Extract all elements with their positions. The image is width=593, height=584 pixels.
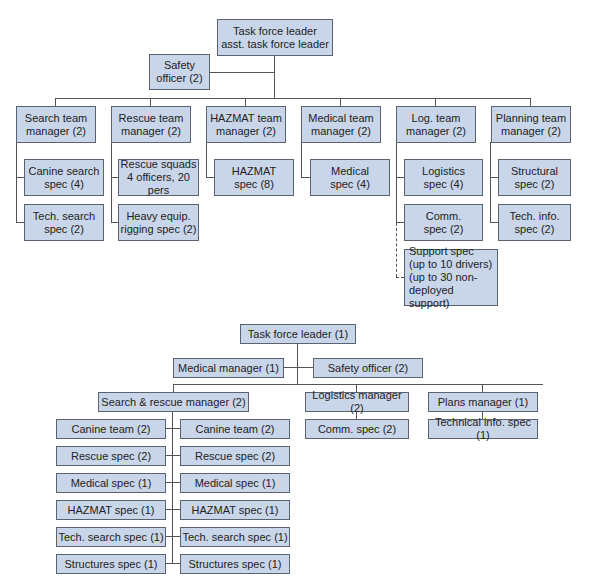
hazmat-spec-box: HAZMAT spec (8) [214,159,294,196]
b-sr-right-spec: HAZMAT spec (1) [180,500,290,520]
comm-spec-box: Comm. spec (2) [404,204,483,241]
connector [173,384,174,392]
connector [111,177,118,178]
connector [245,98,246,106]
connector [111,222,118,223]
hazmat-team-manager-box: HAZMAT team manager (2) [206,106,286,143]
box-label: Heavy equip. rigging spec (2) [121,210,197,236]
box-label: Rescue spec (2) [195,450,275,463]
box-label: Task force leader (1) [248,328,348,341]
b-search-rescue-manager-box: Search & rescue manager (2) [98,392,249,412]
connector [165,482,180,483]
task-force-leader-box: Task force leader asst. task force leade… [217,19,333,56]
box-label: Canine team (2) [72,423,151,436]
b-sr-right-spec: Tech. search spec (1) [180,527,290,547]
rescue-squads-box: Rescue squads 4 officers, 20 pers [118,159,199,196]
safety-officer-box: Safety officer (2) [149,54,210,90]
b-task-force-leader-box: Task force leader (1) [240,324,356,344]
b-sr-right-spec: Canine team (2) [180,419,290,439]
connector [111,142,112,222]
b-sr-left-spec: Canine team (2) [56,419,166,439]
connector [396,222,404,223]
box-label: Medical spec (4) [330,165,370,191]
connector [55,98,531,99]
b-comm-spec-box: Comm. spec (2) [305,419,409,439]
box-label: Safety officer (2) [156,59,202,85]
connector [490,177,498,178]
box-label: Safety officer (2) [328,362,409,375]
support-spec-box: Support spec (up to 10 drivers) (up to 3… [404,249,498,306]
connector [165,563,180,564]
connector [165,428,180,429]
b-sr-left-spec: HAZMAT spec (1) [56,500,166,520]
b-technical-info-spec-box: Technical info. spec (1) [428,419,538,439]
box-label: Task force leader asst. task force leade… [221,25,329,51]
medical-team-manager-box: Medical team manager (2) [301,106,381,143]
connector [530,98,531,106]
connector [340,98,341,106]
search-team-manager-box: Search team manager (2) [16,106,96,143]
box-label: Search team manager (2) [25,112,87,138]
connector [490,142,491,222]
b-sr-left-spec: Medical spec (1) [56,473,166,493]
box-label: Tech. info. spec (2) [509,210,559,236]
connector [16,142,17,222]
box-label: Search & rescue manager (2) [101,396,245,409]
connector [283,367,313,368]
b-plans-manager-box: Plans manager (1) [428,392,538,412]
connector [297,343,298,384]
connector [206,142,207,178]
connector [165,536,180,537]
connector [274,55,275,98]
box-label: Structural spec (2) [511,165,558,191]
box-label: Medical team manager (2) [308,112,373,138]
box-label: Canine search spec (4) [29,165,100,191]
b-safety-officer-box: Safety officer (2) [313,358,423,378]
box-label: Comm. spec (2) [318,423,396,436]
connector [173,384,543,385]
connector [490,222,498,223]
box-label: HAZMAT team manager (2) [210,112,282,138]
box-label: Logistics spec (4) [422,165,465,191]
b-sr-left-spec: Tech. search spec (1) [56,527,166,547]
box-label: HAZMAT spec (1) [68,504,155,517]
rescue-team-manager-box: Rescue team manager (2) [111,106,191,143]
box-label: Tech. search spec (1) [182,531,287,544]
dashed-connector [396,223,397,277]
connector [435,98,436,106]
box-label: Medical manager (1) [178,362,279,375]
dashed-connector [396,277,404,278]
b-sr-left-spec: Rescue spec (2) [56,446,166,466]
connector [150,98,151,106]
connector [206,177,214,178]
box-label: Rescue spec (2) [71,450,151,463]
logistics-spec-box: Logistics spec (4) [404,159,483,196]
connector [482,384,483,392]
box-label: Medical spec (1) [195,477,276,490]
connector [16,222,24,223]
canine-search-spec-box: Canine search spec (4) [24,159,104,196]
b-sr-left-spec: Structures spec (1) [56,554,166,574]
box-label: Log. team manager (2) [406,112,466,138]
tech-info-spec-box: Tech. info. spec (2) [498,204,571,241]
box-label: Medical spec (1) [71,477,152,490]
box-label: Structures spec (1) [189,558,282,571]
box-label: Tech. search spec (1) [58,531,163,544]
box-label: Technical info. spec (1) [429,416,537,442]
box-label: Plans manager (1) [438,396,529,409]
connector [396,142,397,222]
medical-spec-box: Medical spec (4) [310,159,390,196]
b-logistics-manager-box: Logistics manager (2) [305,392,409,412]
connector [16,177,24,178]
box-label: Support spec (up to 10 drivers) (up to 3… [409,245,497,310]
box-label: Planning team manager (2) [496,112,566,138]
box-label: Rescue team manager (2) [119,112,184,138]
connector [301,142,302,178]
b-sr-right-spec: Structures spec (1) [180,554,290,574]
box-label: HAZMAT spec (1) [192,504,279,517]
b-medical-manager-box: Medical manager (1) [173,358,284,378]
connector [165,509,180,510]
box-label: Tech. search spec (2) [33,210,95,236]
log-team-manager-box: Log. team manager (2) [396,106,476,143]
connector [301,177,310,178]
